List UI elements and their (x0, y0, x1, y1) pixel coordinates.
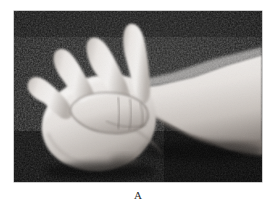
photograph (14, 11, 262, 182)
film-grain-overlay (14, 11, 262, 182)
figure-caption: A (0, 188, 276, 202)
figure-panel: A (0, 0, 276, 211)
photograph-canvas (14, 11, 262, 182)
